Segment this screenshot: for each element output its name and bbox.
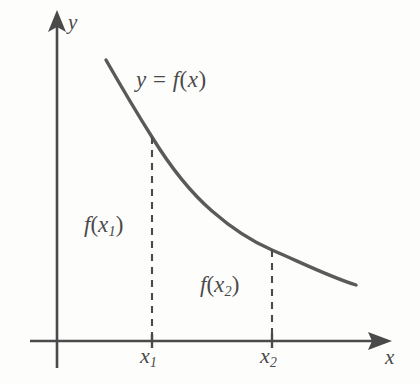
- tick-x2-symbol: x: [260, 343, 270, 368]
- fx2-argument: x: [214, 272, 224, 297]
- fx2-close-paren: ): [232, 272, 240, 297]
- fx1-open-paren: (: [90, 212, 98, 237]
- equation-open-paren: (: [180, 67, 188, 92]
- fx1-subscript: 1: [108, 223, 115, 239]
- fx2-subscript: 2: [224, 283, 231, 299]
- value-label-fx2: f(x2): [200, 273, 239, 298]
- value-label-fx1: f(x1): [84, 213, 123, 238]
- tick-label-x2: x2: [260, 345, 277, 369]
- fx2-open-paren: (: [206, 272, 214, 297]
- equation-operator: =: [153, 67, 166, 92]
- curve-equation-label: y = f(x): [136, 68, 207, 91]
- fx1-close-paren: ): [116, 212, 124, 237]
- tick-x1-symbol: x: [140, 343, 150, 368]
- tick-x2-subscript: 2: [270, 355, 277, 370]
- y-axis-label: y: [68, 12, 77, 33]
- x-axis-label: x: [385, 347, 394, 368]
- equation-close-paren: ): [198, 67, 206, 92]
- function-curve: [106, 60, 356, 285]
- graph-canvas: [0, 0, 420, 384]
- fx1-argument: x: [98, 212, 108, 237]
- equation-lhs: y: [136, 67, 147, 92]
- tick-x1-subscript: 1: [150, 355, 157, 370]
- tick-label-x1: x1: [140, 345, 157, 369]
- equation-function-name: f: [173, 67, 180, 92]
- equation-argument: x: [188, 67, 199, 92]
- function-graph-figure: y x y = f(x) f(x1) f(x2) x1 x2: [0, 0, 420, 384]
